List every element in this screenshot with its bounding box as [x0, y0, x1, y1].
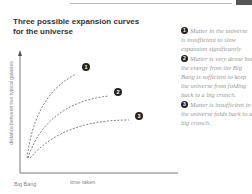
marker-3: 3 — [135, 112, 143, 120]
number-badge-icon: 3 — [181, 101, 188, 108]
y-axis-arrow-icon — [18, 50, 22, 56]
note-3: 3Matter is insufficient in the universe … — [181, 100, 252, 128]
header-block — [236, 0, 252, 5]
header-rule — [70, 3, 232, 4]
number-badge-icon: 2 — [181, 55, 188, 62]
expansion-chart — [0, 40, 180, 180]
diagram-title: Three possible expansion curves for the … — [13, 17, 143, 37]
marker-1: 1 — [82, 63, 90, 71]
note-text: Matter in the universe is insufficient t… — [181, 27, 248, 52]
notes-panel: 1Matter in the universe is insufficient … — [181, 26, 252, 127]
y-axis-label: distance between two typical galaxies — [8, 48, 14, 158]
curve-1 — [27, 74, 76, 158]
number-badge-icon: 1 — [181, 27, 188, 34]
y-axis-label-wrap: distance between two typical galaxies — [4, 50, 14, 160]
note-1: 1Matter in the universe is insufficient … — [181, 26, 252, 54]
curve-2 — [28, 96, 109, 158]
note-2: 2Matter is very dense but the energy fro… — [181, 54, 252, 100]
x-axis-label: time taken — [70, 179, 95, 185]
note-text: Matter is very dense but the energy from… — [181, 55, 252, 99]
marker-2: 2 — [114, 88, 122, 96]
note-text: Matter is insufficient in the universe f… — [181, 101, 252, 126]
curve-3 — [30, 120, 129, 158]
origin-label: Big Bang — [14, 181, 36, 187]
